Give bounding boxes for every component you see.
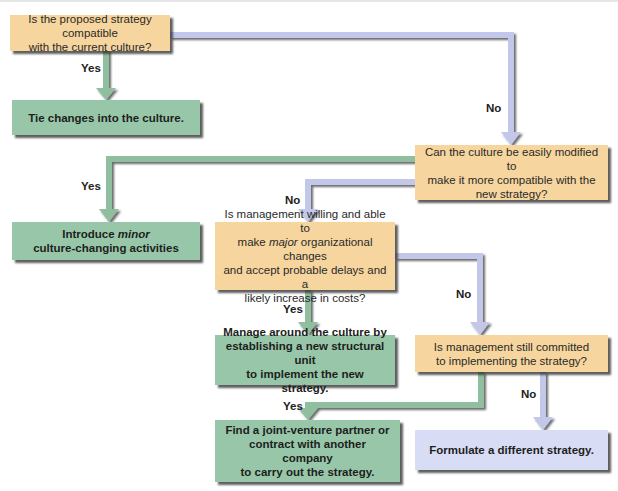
action-introduce-minor-activities: Introduce minor culture-changing activit… [12,222,200,260]
edge-q4-a5-no [533,372,553,430]
edge-label-q1-yes: Yes [81,62,101,74]
decision-management-still-committed: Is management still committed to impleme… [415,335,608,372]
decision-text-emphasis: major [269,236,298,248]
action-find-joint-venture: Find a joint-venture partner or contract… [215,420,400,482]
action-text-line: establishing a new structural unit [223,339,387,367]
edge-label-q1-no: No [486,102,501,114]
action-manage-around-culture: Manage around the culture by establishin… [215,335,395,385]
decision-text-line: make it more compatible with the [423,173,600,187]
action-text-line: culture-changing activities [33,241,179,255]
action-text-line: Find a joint-venture partner or [223,423,392,437]
edge-label-q2-no: No [285,194,300,206]
edge-q1-q2-no [170,32,521,145]
edge-label-q4-no: No [521,388,536,400]
action-text-line: contract with another company [223,437,392,465]
decision-culture-modifiable: Can the culture be easily modified to ma… [415,145,608,200]
action-text-line: to implement the new strategy. [223,367,387,395]
decision-strategy-compatible: Is the proposed strategy compatible with… [10,15,170,51]
decision-text-line: likely increase in costs? [223,291,387,305]
edge-q1-a1-yes [96,50,116,100]
action-tie-changes: Tie changes into the culture. [12,100,200,135]
edge-label-q2-yes: Yes [81,180,101,192]
decision-text-line: with the current culture? [18,40,162,54]
edge-label-q3-no: No [456,288,471,300]
action-text-line: to carry out the strategy. [223,465,392,479]
action-formulate-different-strategy: Formulate a different strategy. [415,430,608,470]
decision-management-major-changes: Is management willing and able to make m… [215,222,395,290]
decision-text-line: make major organizational changes [223,235,387,263]
decision-text-prefix: make [238,236,269,248]
decision-text-line: Can the culture be easily modified to [423,145,600,173]
action-text-line: Introduce minor [33,227,179,241]
decision-text-line: Is the proposed strategy compatible [18,12,162,40]
action-text: Formulate a different strategy. [429,443,594,457]
action-text-line: Manage around the culture by [223,325,387,339]
edge-q3-q4-no [395,253,490,335]
decision-text-line: Is management willing and able to [223,207,387,235]
action-text: Tie changes into the culture. [28,111,184,125]
edge-label-q4-yes: Yes [283,400,303,412]
decision-text-line: and accept probable delays and a [223,263,387,291]
decision-text-line: Is management still committed [434,340,589,354]
action-text-prefix: Introduce [62,228,118,240]
action-text-emphasis: minor [118,228,150,240]
decision-text-line: new strategy? [423,187,600,201]
decision-text-line: to implementing the strategy? [434,354,589,368]
